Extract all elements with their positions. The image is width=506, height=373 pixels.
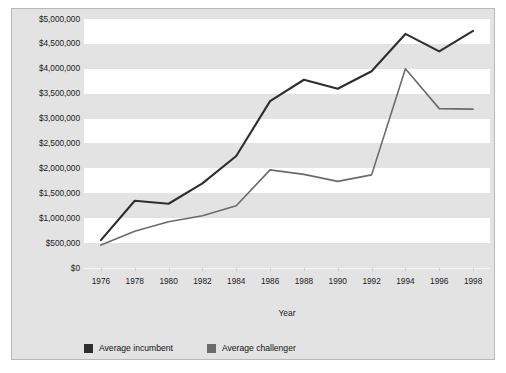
x-axis-tick	[372, 268, 373, 271]
y-axis-tick-label: $1,500,000	[18, 188, 80, 198]
x-axis-tick	[473, 268, 474, 271]
x-axis-tick-label: 1992	[362, 276, 380, 286]
gridline-band	[84, 168, 490, 193]
x-axis-tick-label: 1986	[261, 276, 279, 286]
x-axis-line	[84, 268, 490, 269]
x-axis-tick	[135, 268, 136, 271]
legend-item[interactable]: Average incumbent	[84, 343, 173, 353]
legend-item[interactable]: Average challenger	[207, 343, 296, 353]
x-axis-tick	[405, 268, 406, 271]
x-axis-tick-labels: 1976197819801982198419861988199019921994…	[84, 276, 490, 290]
y-axis-tick-label: $1,000,000	[18, 213, 80, 223]
x-axis-tick	[270, 268, 271, 271]
y-axis-tick-label: $4,500,000	[18, 38, 80, 48]
x-axis-tick-label: 1984	[227, 276, 245, 286]
y-axis-tick-label: $0	[18, 263, 80, 273]
x-axis-tick-label: 1976	[92, 276, 110, 286]
x-axis-tick-label: 1998	[464, 276, 482, 286]
y-axis-tick-label: $2,000,000	[18, 163, 80, 173]
x-axis-tick	[338, 268, 339, 271]
y-axis-tick-label: $500,000	[18, 238, 80, 248]
chart-figure: $5,000,000$4,500,000$4,000,000$3,500,000…	[0, 0, 506, 373]
x-axis-tick-label: 1990	[329, 276, 347, 286]
legend-swatch-challenger	[207, 344, 216, 353]
x-axis-tick	[304, 268, 305, 271]
gridline-band	[84, 218, 490, 243]
chart-legend: Average incumbentAverage challenger	[84, 340, 490, 356]
gridline-band	[84, 119, 490, 144]
y-axis-tick-label: $2,500,000	[18, 138, 80, 148]
x-axis-tick	[169, 268, 170, 271]
x-axis-tick	[101, 268, 102, 271]
x-axis-title: Year	[84, 308, 490, 318]
x-axis-tick-label: 1994	[396, 276, 414, 286]
y-axis-tick-labels: $5,000,000$4,500,000$4,000,000$3,500,000…	[18, 0, 80, 373]
x-axis-tick-label: 1996	[430, 276, 448, 286]
x-axis-tick-label: 1980	[159, 276, 177, 286]
y-axis-tick-label: $5,000,000	[18, 14, 80, 24]
x-axis-tick	[236, 268, 237, 271]
x-axis-tick	[202, 268, 203, 271]
x-axis-tick	[439, 268, 440, 271]
gridline-band	[84, 69, 490, 94]
y-axis-tick-label: $3,000,000	[18, 113, 80, 123]
y-axis-tick-label: $3,500,000	[18, 88, 80, 98]
legend-swatch-incumbent	[84, 344, 93, 353]
y-axis-tick-label: $4,000,000	[18, 63, 80, 73]
x-axis-tick-label: 1982	[193, 276, 211, 286]
gridline-band	[84, 19, 490, 44]
x-axis-tick-label: 1988	[295, 276, 313, 286]
legend-item-label: Average challenger	[222, 343, 296, 353]
legend-item-label: Average incumbent	[99, 343, 173, 353]
x-axis-tick-label: 1978	[126, 276, 144, 286]
